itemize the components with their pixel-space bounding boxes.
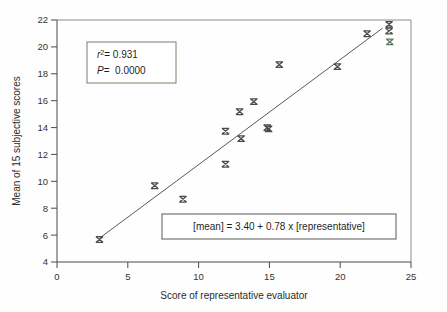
r-squared-value: = 0.931	[104, 49, 138, 60]
data-point-marker	[238, 136, 244, 142]
data-point-marker	[386, 28, 392, 34]
x-tick-label: 10	[193, 271, 204, 282]
x-tick-label: 0	[54, 271, 59, 282]
equation-text: [mean] = 3.40 + 0.78 x [representative]	[193, 221, 365, 232]
data-point-marker	[276, 62, 282, 68]
data-point-marker	[387, 39, 393, 45]
data-point-marker	[236, 109, 242, 115]
data-point-marker	[251, 99, 257, 105]
data-point-marker	[222, 128, 228, 134]
x-tick-label: 5	[125, 271, 130, 282]
y-tick-label: 14	[37, 122, 48, 133]
y-axis-ticks: 4 6 8 10 12 14 16 18 20 22	[37, 14, 57, 267]
x-tick-label: 20	[335, 271, 346, 282]
y-tick-label: 8	[43, 203, 48, 214]
y-tick-label: 6	[43, 230, 48, 241]
y-tick-label: 12	[37, 149, 48, 160]
data-point-marker	[334, 64, 340, 70]
y-tick-label: 4	[43, 256, 48, 267]
x-axis-title: Score of representative evaluator	[160, 290, 308, 301]
x-axis-ticks: 0 5 10 15 20 25	[54, 262, 416, 282]
p-value-annotation: P= 0.0000	[97, 65, 146, 76]
statistics-box: r2= 0.931 P= 0.0000	[87, 42, 176, 83]
y-axis-title: Mean of 15 subjective scores	[11, 76, 22, 206]
data-point-marker	[180, 196, 186, 202]
y-tick-label: 22	[37, 14, 48, 25]
scatter-plot-figure: 4 6 8 10 12 14 16 18 20 22 0 5	[0, 0, 447, 312]
y-tick-label: 10	[37, 176, 48, 187]
equation-box: [mean] = 3.40 + 0.78 x [representative]	[162, 214, 396, 239]
p-value: = 0.0000	[104, 65, 146, 76]
data-point-marker	[386, 22, 392, 28]
plot-canvas: 4 6 8 10 12 14 16 18 20 22 0 5	[0, 0, 447, 312]
data-point-marker	[96, 237, 102, 243]
data-point-marker	[152, 183, 158, 189]
x-tick-label: 15	[264, 271, 275, 282]
data-point-marker	[364, 31, 370, 37]
x-tick-label: 25	[406, 271, 417, 282]
y-tick-label: 18	[37, 68, 48, 79]
y-tick-label: 16	[37, 95, 48, 106]
y-tick-label: 20	[37, 41, 48, 52]
data-point-marker	[222, 161, 228, 167]
